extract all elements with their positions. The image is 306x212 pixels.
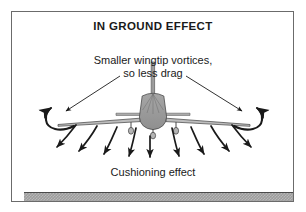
ground-effect-diagram: IN GROUND EFFECT Smaller wingtip vortice… <box>0 0 306 212</box>
page-title: IN GROUND EFFECT <box>0 20 306 32</box>
vortex-annotation-line-1: Smaller wingtip vortices, <box>0 54 306 66</box>
ground-surface-icon <box>24 192 294 202</box>
cushioning-effect-label: Cushioning effect <box>0 166 306 178</box>
vortex-annotation-line-2: so less drag <box>0 67 306 79</box>
